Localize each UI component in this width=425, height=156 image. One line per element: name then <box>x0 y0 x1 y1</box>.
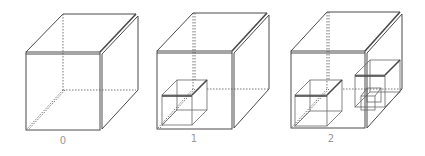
panel-label-0: 0 <box>53 135 73 146</box>
inner-cube-b <box>355 60 400 110</box>
inner-cube-a <box>295 80 342 126</box>
panel-label-1: 1 <box>184 133 204 144</box>
cube-panel-1 <box>157 13 269 129</box>
inner-cube <box>162 80 207 125</box>
cube-panel-2 <box>291 12 402 128</box>
cube-diagram <box>0 0 425 156</box>
panel-label-2: 2 <box>321 133 341 144</box>
cube-panel-0 <box>26 14 138 130</box>
